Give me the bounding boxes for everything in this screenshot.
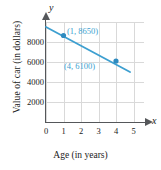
data-point-label: (1, 8650) <box>67 26 98 36</box>
x-axis-title: Age (in years) <box>0 150 161 160</box>
data-point-label: (4, 6100) <box>64 61 95 71</box>
data-point-marker <box>113 58 118 63</box>
chart-figure: Value of car (in dollars) y x 2000 4000 … <box>0 0 161 170</box>
data-point-marker <box>61 33 66 38</box>
